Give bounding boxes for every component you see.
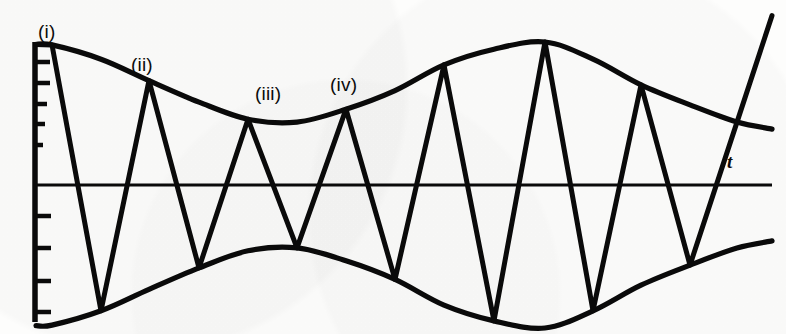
y-axis-group — [35, 42, 51, 322]
lower-envelope-curve — [36, 241, 772, 328]
peak-label-i: (i) — [38, 22, 55, 41]
waveform-plot — [0, 0, 786, 334]
peak-label-ii: (ii) — [131, 55, 153, 74]
peak-label-iv: (iv) — [330, 75, 357, 94]
waveform-figure: (i) (ii) (iii) (iv) t — [0, 0, 786, 334]
time-axis-label: t — [727, 152, 732, 171]
peak-label-iii: (iii) — [255, 84, 281, 103]
